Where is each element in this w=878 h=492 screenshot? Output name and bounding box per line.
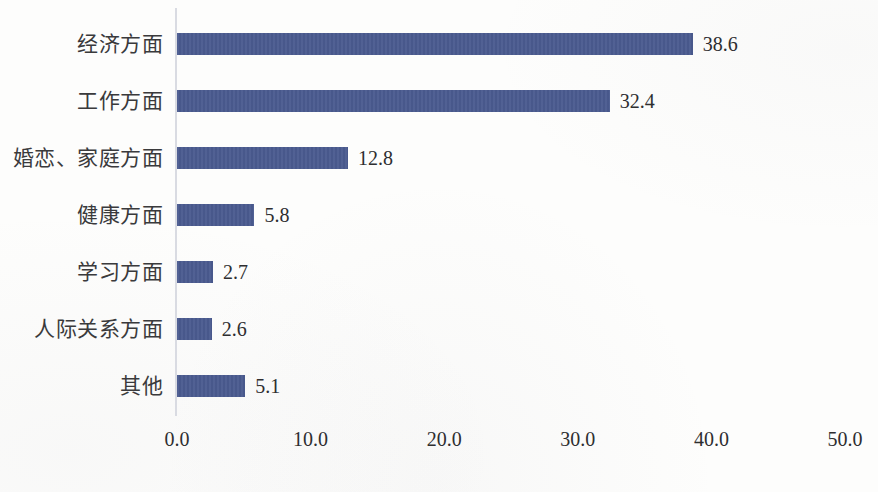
category-label: 经济方面 (0, 27, 163, 61)
value-label: 2.7 (223, 255, 248, 289)
value-label: 5.1 (255, 369, 280, 403)
bar-texture (177, 147, 348, 169)
category-label: 学习方面 (0, 255, 163, 289)
bar-marriage-family[interactable] (177, 147, 348, 169)
bar-study[interactable] (177, 261, 213, 283)
bar-texture (177, 33, 693, 55)
x-axis-tick-label: 0.0 (137, 428, 217, 451)
bar-row[interactable]: 健康方面 5.8 (0, 198, 878, 232)
bar-row[interactable]: 其他 5.1 (0, 369, 878, 403)
category-label: 人际关系方面 (0, 312, 163, 346)
category-label: 健康方面 (0, 198, 163, 232)
bar-texture (177, 90, 610, 112)
bar-texture (177, 375, 245, 397)
value-label: 32.4 (620, 84, 655, 118)
value-label: 12.8 (358, 141, 393, 175)
category-label: 婚恋、家庭方面 (0, 141, 163, 175)
bar-row[interactable]: 学习方面 2.7 (0, 255, 878, 289)
x-axis-tick-label: 20.0 (404, 428, 484, 451)
value-label: 2.6 (222, 312, 247, 346)
bar-economic[interactable] (177, 33, 693, 55)
x-axis-tick-label: 30.0 (538, 428, 618, 451)
bar-row[interactable]: 工作方面 32.4 (0, 84, 878, 118)
value-label: 5.8 (264, 198, 289, 232)
bar-work[interactable] (177, 90, 610, 112)
x-axis-tick-label: 40.0 (671, 428, 751, 451)
bar-health[interactable] (177, 204, 254, 226)
bar-other[interactable] (177, 375, 245, 397)
category-label: 其他 (0, 369, 163, 403)
horizontal-bar-chart: 经济方面 38.6 工作方面 32.4 婚恋、家庭方面 12.8 健康方面 5.… (0, 0, 878, 492)
value-label: 38.6 (703, 27, 738, 61)
bar-texture (177, 261, 213, 283)
bar-texture (177, 318, 212, 340)
category-label: 工作方面 (0, 84, 163, 118)
bar-row[interactable]: 婚恋、家庭方面 12.8 (0, 141, 878, 175)
bar-interpersonal[interactable] (177, 318, 212, 340)
bar-row[interactable]: 经济方面 38.6 (0, 27, 878, 61)
plot-area: 经济方面 38.6 工作方面 32.4 婚恋、家庭方面 12.8 健康方面 5.… (0, 0, 878, 492)
bar-texture (177, 204, 254, 226)
x-axis-tick-label: 10.0 (271, 428, 351, 451)
x-axis-tick-label: 50.0 (805, 428, 878, 451)
bar-row[interactable]: 人际关系方面 2.6 (0, 312, 878, 346)
